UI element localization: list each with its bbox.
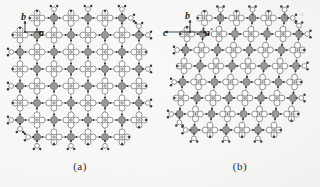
ligand-atom [194,65,196,67]
ligand-atom [53,124,55,126]
ligand-atom [266,28,268,30]
open-atom [225,106,231,112]
open-atom [232,79,238,85]
ligand-atom [92,85,94,87]
open-atom [279,95,285,101]
open-atom [73,15,79,21]
ligand-atom [189,129,191,131]
open-atom [203,47,209,53]
open-atom [102,44,108,50]
metal-atom [50,48,57,55]
ligand-atom [240,81,242,83]
open-atom [205,95,211,101]
ligand-atom [262,129,264,131]
ligand-atom [24,139,26,141]
open-atom [73,49,79,55]
ligand-atom [225,17,227,19]
open-atom [226,47,232,53]
open-atom [220,111,226,117]
open-atom [102,88,108,94]
ligand-atom [195,102,197,104]
ligand-atom [225,133,227,135]
ligand-atom [260,92,262,94]
open-atom [248,36,254,42]
open-atom [97,83,103,89]
metal-atom [208,110,215,117]
open-atom [196,84,202,90]
ligand-atom [299,65,301,67]
ligand-atom [193,124,195,126]
open-atom [240,63,246,69]
ligand-atom [298,29,300,31]
open-atom [86,7,91,12]
open-atom [69,143,74,148]
open-atom [107,83,113,89]
open-atom [137,24,142,29]
ligand-atom [56,5,58,7]
ligand-atom [92,51,94,53]
open-atom [218,63,224,69]
open-atom [175,48,180,53]
ligand-atom [242,118,244,120]
open-atom [252,111,258,117]
open-atom [224,136,229,141]
open-atom [85,105,91,111]
open-atom [289,106,295,112]
ligand-atom [7,82,9,84]
open-atom [97,15,103,21]
ligand-atom [290,65,292,67]
ligand-atom [263,60,265,62]
open-atom [193,106,199,112]
open-atom [270,15,276,21]
axis-label-c-b: c [163,27,167,38]
ligand-atom [182,76,184,78]
ligand-atom [204,65,206,67]
ligand-atom [296,97,298,99]
ligand-atom [133,14,135,16]
ligand-atom [53,56,55,58]
open-atom [34,88,40,94]
ligand-atom [41,102,43,104]
open-atom [22,66,28,72]
ligand-atom [216,113,218,115]
ligand-atom [280,5,282,7]
axis-label-a-superscript: * [210,27,213,33]
ligand-atom [138,30,140,32]
open-atom [18,126,23,131]
ligand-atom [223,5,225,7]
open-atom [124,32,130,38]
open-atom [34,78,40,84]
ligand-atom [222,49,224,51]
ligand-atom [211,49,213,51]
ligand-atom [233,97,235,99]
ligand-atom [198,70,200,72]
ligand-atom [246,17,248,19]
open-atom [39,83,45,89]
ligand-atom [196,140,198,142]
open-atom [68,44,74,50]
ligand-atom [283,13,285,15]
ligand-atom [70,39,72,41]
ligand-atom [75,34,77,36]
ligand-atom [293,33,295,35]
ligand-atom [104,10,106,12]
open-atom [51,37,57,43]
ligand-atom [175,113,177,115]
ligand-atom [41,68,43,70]
ligand-atom [274,118,276,120]
metal-atom [101,99,108,106]
metal-atom [196,62,203,69]
open-atom [212,127,218,133]
open-atom [9,118,14,123]
ligand-atom [306,62,308,64]
ligand-atom [223,97,225,99]
open-atom [266,20,272,26]
open-atom [272,63,278,69]
ligand-atom [7,116,9,118]
ligand-atom [92,119,94,121]
ligand-atom [138,39,140,41]
ligand-atom [30,68,32,70]
metal-atom [257,94,264,101]
ligand-atom [22,131,24,133]
open-atom [17,95,23,101]
